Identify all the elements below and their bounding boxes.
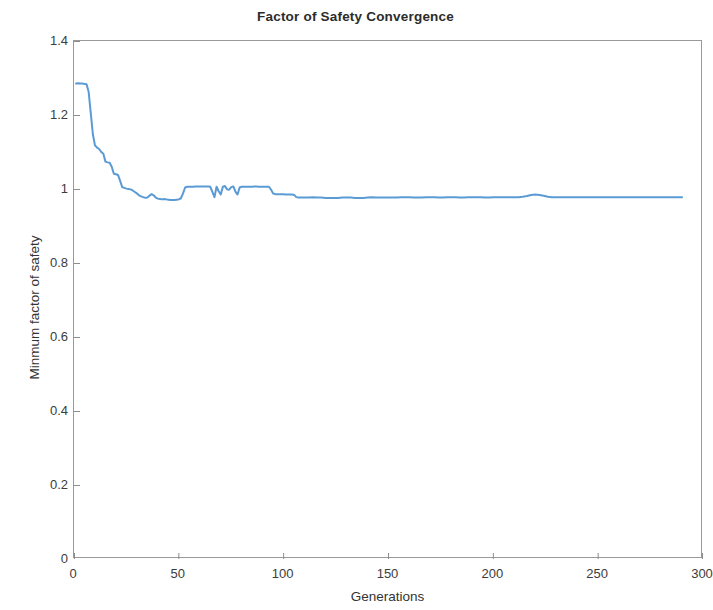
axis-tickmarks — [74, 42, 703, 560]
x-tick-label: 200 — [481, 566, 503, 581]
y-tick-label: 0 — [4, 551, 68, 566]
x-tick-label: 0 — [69, 566, 76, 581]
x-tick-label: 100 — [272, 566, 294, 581]
y-tick-label: 1.2 — [4, 107, 68, 122]
y-tick-label: 0.2 — [4, 477, 68, 492]
plot-area — [73, 40, 702, 558]
x-tick-label: 250 — [586, 566, 608, 581]
x-axis-tick-labels: 050100150200250300 — [0, 566, 711, 588]
x-tick-label: 150 — [377, 566, 399, 581]
x-tick-label: 300 — [691, 566, 713, 581]
chart-title: Factor of Safety Convergence — [0, 9, 711, 24]
y-axis-label: Minmum factor of safety — [27, 178, 42, 438]
y-tick-label: 1.4 — [4, 33, 68, 48]
line-chart-svg — [74, 41, 703, 559]
series-line-minimum-factor-of-safety — [76, 83, 682, 200]
x-tick-label: 50 — [171, 566, 185, 581]
x-axis-label: Generations — [73, 589, 702, 604]
